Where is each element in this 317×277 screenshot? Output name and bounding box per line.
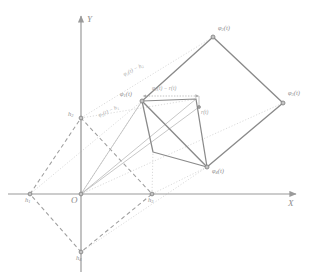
- vertex-marker-phi3: [281, 101, 285, 105]
- vertex-marker-phi2: [211, 35, 215, 39]
- vertex-label-phi2: φ2(t): [218, 25, 230, 33]
- y-axis-label: Y: [87, 15, 92, 24]
- vertex-label-phi4: φ4(t): [212, 168, 224, 176]
- outer-rectangle: [142, 37, 283, 167]
- x-axis-label: X: [288, 199, 294, 208]
- point-label-h1-sub: 1: [28, 199, 30, 204]
- point-label-h3: h3: [148, 197, 153, 205]
- vector-label-r-of-t: r(t): [201, 110, 208, 116]
- vector-label-phi-minus-r-rest: (t) − r(t): [157, 85, 176, 91]
- vertex-label-phi3: φ3(t): [288, 90, 300, 98]
- point-label-h1: h1: [25, 197, 30, 205]
- point-marker-h4: [79, 250, 83, 254]
- figure-canvas: X Y O φ2(t) φ3(t) φ4(t) φ1(t) h1 h2 h3 h…: [0, 0, 317, 277]
- vertex-marker-phi4: [205, 165, 209, 169]
- vertex-label-phi2-suffix: (t): [224, 24, 230, 31]
- vertex-label-phi3-suffix: (t): [294, 89, 300, 96]
- point-label-h3-sub: 3: [151, 199, 153, 204]
- point-label-h4-sub: 4: [79, 257, 81, 262]
- point-label-h4: h4: [76, 255, 81, 263]
- point-marker-h2: [79, 116, 83, 120]
- vector-label-phi-minus-r: φ1(t) − r(t): [152, 86, 176, 93]
- vertex-label-phi1-suffix: (t): [126, 90, 132, 97]
- coordinate-axes: [8, 16, 296, 272]
- point-marker-origin: [79, 192, 83, 196]
- dotted-guide-lines: [30, 37, 283, 252]
- guide-h3-to-phi4: [152, 167, 207, 194]
- geometry-diagram: [0, 0, 317, 277]
- point-label-h2: h2: [68, 111, 73, 119]
- guide-h3-to-inner-bottom: [152, 152, 153, 194]
- guide-origin-to-phi3: [81, 103, 283, 194]
- vertex-label-phi4-suffix: (t): [218, 167, 224, 174]
- point-marker-h1: [28, 192, 32, 196]
- origin-label: O: [71, 196, 78, 205]
- dashed-quadrilateral: [30, 118, 152, 252]
- dashed-quad-path: [30, 118, 152, 252]
- vertex-marker-phi1: [140, 99, 144, 103]
- outer-rectangle-path: [142, 37, 283, 167]
- point-label-h2-sub: 2: [71, 113, 73, 118]
- guide-h1-to-phi1-ext: [30, 101, 142, 194]
- vertex-label-phi1: φ1(t): [120, 91, 132, 99]
